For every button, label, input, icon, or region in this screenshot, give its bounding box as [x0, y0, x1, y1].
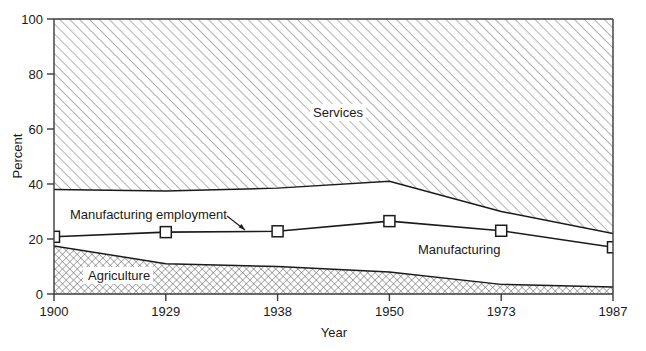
series-label-manufacturing: Manufacturing — [418, 242, 500, 257]
data-point-marker — [496, 225, 507, 236]
annotation-manufacturing: Manufacturing — [418, 242, 500, 257]
chart-container: 0 20 40 60 80 100 1900 1929 1938 1950 19… — [0, 0, 646, 351]
y-tick-label: 100 — [21, 12, 43, 27]
annotation-agriculture: Agriculture — [83, 267, 153, 284]
x-tick-label: 1987 — [599, 304, 628, 319]
y-tick-label: 80 — [29, 67, 43, 82]
data-point-marker — [384, 216, 395, 227]
x-tick-label: 1900 — [40, 304, 69, 319]
series-label-services: Services — [313, 105, 363, 120]
y-tick-label: 20 — [29, 232, 43, 247]
employment-share-area-chart: 0 20 40 60 80 100 1900 1929 1938 1950 19… — [0, 0, 646, 351]
annotation-services: Services — [310, 104, 366, 121]
data-point-marker — [160, 227, 171, 238]
y-tick-label: 60 — [29, 122, 43, 137]
x-axis-title: Year — [321, 325, 348, 340]
y-tick-label: 40 — [29, 177, 43, 192]
series-label-agriculture: Agriculture — [88, 268, 150, 283]
y-tick-label: 0 — [36, 287, 43, 302]
x-tick-label: 1973 — [487, 304, 516, 319]
x-tick-label: 1950 — [375, 304, 404, 319]
data-point-marker — [272, 226, 283, 237]
y-axis-title: Percent — [10, 133, 25, 178]
series-label-manufacturing-employment: Manufacturing employment — [70, 207, 227, 222]
x-tick-label: 1938 — [263, 304, 292, 319]
x-tick-label: 1929 — [151, 304, 180, 319]
